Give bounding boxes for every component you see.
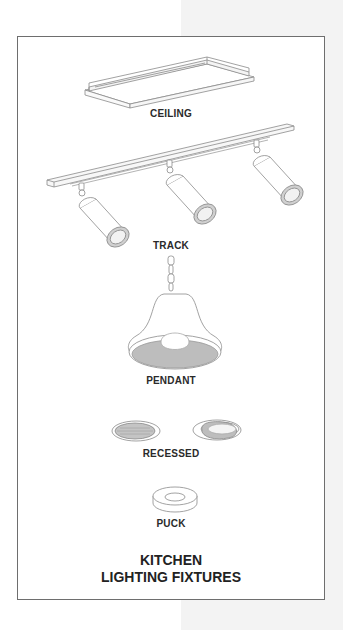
fixtures-illustration <box>0 0 343 630</box>
recessed-fixture-icon <box>112 420 241 441</box>
recessed-label: RECESSED <box>17 448 325 459</box>
pendant-label: PENDANT <box>17 375 325 386</box>
diagram-title-line1: KITCHEN <box>17 552 325 569</box>
diagram-title-line2: LIGHTING FIXTURES <box>17 569 325 586</box>
track-fixture-icon <box>47 124 307 251</box>
track-label: TRACK <box>17 240 325 251</box>
pendant-fixture-icon <box>128 256 221 369</box>
ceiling-label: CEILING <box>17 108 325 119</box>
puck-label: PUCK <box>17 518 325 529</box>
puck-fixture-icon <box>153 487 197 512</box>
ceiling-fixture-icon <box>85 57 254 108</box>
